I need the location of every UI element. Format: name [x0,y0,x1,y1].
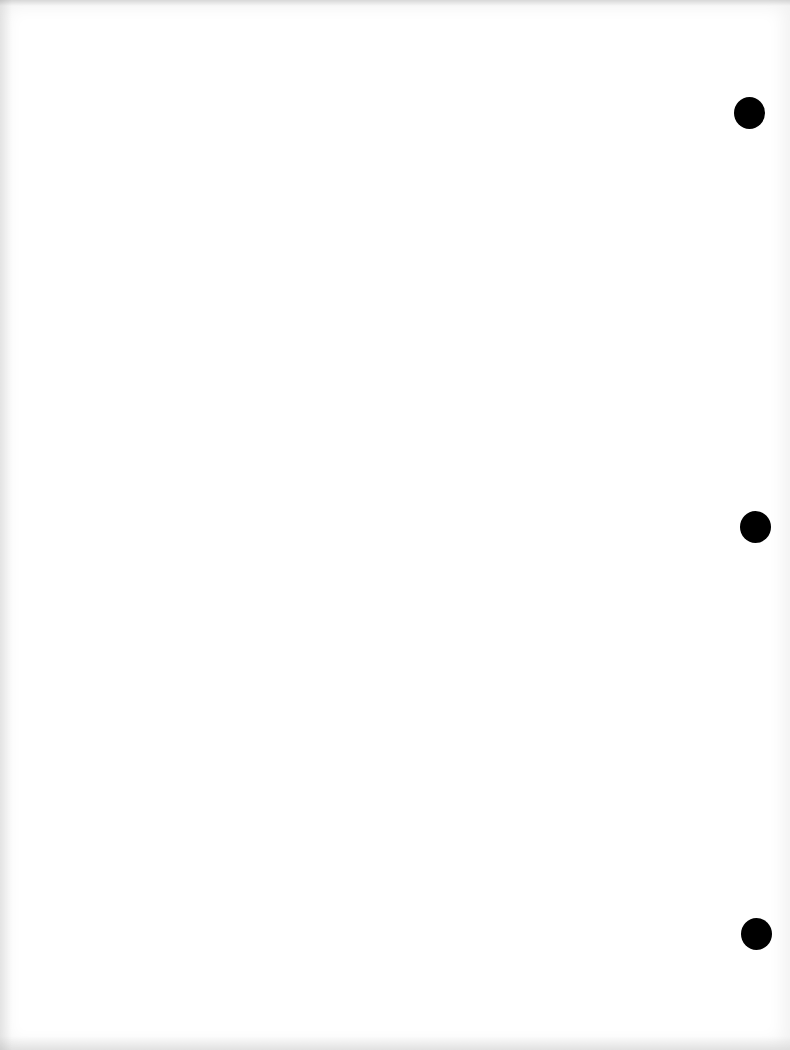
scan-left-edge-shadow [0,0,12,1050]
scan-top-edge-shadow [0,0,790,6]
blank-document-page [0,0,790,1050]
punch-hole-top [734,97,765,129]
scan-bottom-edge-shadow [0,1036,790,1050]
punch-hole-bottom [741,918,772,950]
punch-hole-middle [740,511,771,543]
